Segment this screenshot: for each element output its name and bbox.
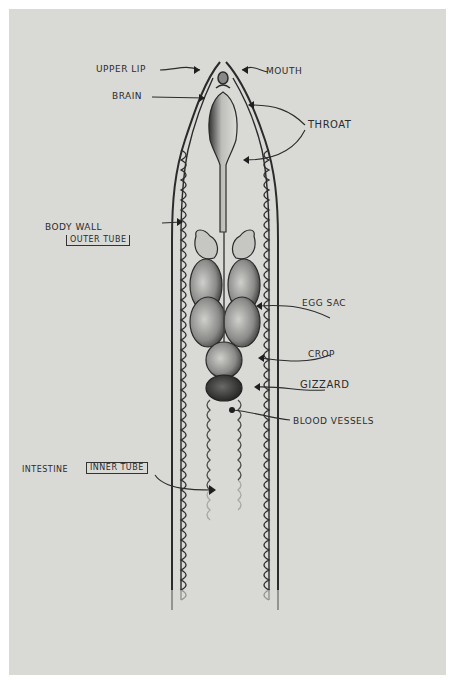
earthworm-drawing [0,0,455,683]
label-outer-tube: Outer Tube [66,235,130,246]
label-mouth: Mouth [266,66,302,76]
label-gizzard: Gizzard [300,380,349,390]
label-inner-tube: Inner Tube [86,462,148,474]
label-brain: Brain [112,91,142,101]
throat [209,92,237,232]
label-egg-sac: Egg Sac [302,298,346,308]
crop [206,342,242,378]
label-upper-lip: Upper Lip [96,64,146,74]
label-blood-vessels: Blood Vessels [293,416,374,426]
head [216,72,230,88]
label-intestine: Intestine [22,465,68,475]
label-crop: Crop [308,349,335,359]
intestine [207,400,241,520]
label-body-wall: Body Wall [45,222,102,232]
gizzard [206,375,242,401]
egg-sacs [190,230,260,347]
label-throat: Throat [308,120,351,130]
